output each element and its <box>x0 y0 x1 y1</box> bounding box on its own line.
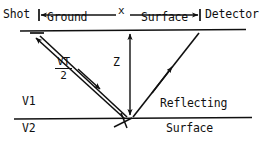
shot-label: Shot <box>3 9 30 21</box>
ground-label: Ground <box>47 12 87 24</box>
ground-surface-line <box>20 30 246 32</box>
seismic-reflection-diagram: Shot Ground x Surface Detector Z VT 2 V1… <box>0 0 261 144</box>
offset-distance-label: x <box>118 5 124 16</box>
surface-label-bottom: Surface <box>166 123 213 135</box>
upgoing-ray-to-shot <box>36 38 125 119</box>
reflecting-surface-line <box>14 118 252 120</box>
raypath-length-label: VT 2 <box>55 56 72 81</box>
raypath-denominator: 2 <box>60 69 67 81</box>
upgoing-ray-direction-arrow <box>152 67 172 93</box>
depth-label: Z <box>113 57 120 69</box>
diagram-canvas <box>0 0 261 144</box>
reflecting-label: Reflecting <box>160 98 227 110</box>
velocity-layer1-label: V1 <box>22 96 35 108</box>
raypath-numerator: VT <box>57 56 70 68</box>
surface-label-top: Surface <box>141 12 188 24</box>
downgoing-ray <box>40 36 127 117</box>
detector-label: Detector <box>205 9 259 21</box>
velocity-layer2-label: V2 <box>22 123 35 135</box>
